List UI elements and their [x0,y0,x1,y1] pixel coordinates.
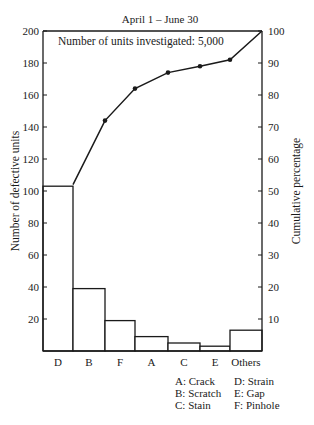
x-tick-label: A [148,356,156,368]
y-tick-label: 160 [23,89,40,101]
bar-f [105,321,135,351]
y-tick-label: 20 [28,313,40,325]
pareto-chart: DBFACEOthers2040608010012014016018020010… [0,0,314,425]
bar-a [135,337,168,351]
x-tick-label: F [117,356,123,368]
legend-entry: F: Pinhole [234,399,280,411]
cumulative-point [228,58,233,63]
y2-tick-label: 20 [268,281,280,293]
y-axis-label: Number of defective units [9,130,21,251]
x-tick-label: Others [231,356,260,368]
y-tick-label: 60 [28,249,40,261]
y2-tick-label: 80 [268,89,280,101]
cumulative-line [73,31,262,185]
y2-tick-label: 40 [268,217,280,229]
y-tick-label: 120 [23,153,40,165]
legend-entry: C: Stain [175,399,211,411]
chart-annotation: Number of units investigated: 5,000 [58,35,224,48]
cumulative-point [133,86,138,91]
legend-entry: A: Crack [175,375,216,387]
y2-tick-label: 60 [268,153,280,165]
y-tick-label: 180 [23,57,40,69]
bar-e [200,346,230,351]
y2-tick-label: 10 [268,313,280,325]
bar-d [43,186,73,351]
y-tick-label: 100 [23,185,40,197]
x-tick-label: C [180,356,187,368]
y-tick-label: 200 [23,25,40,37]
bar-others [230,330,262,351]
legend-entry: E: Gap [234,387,265,399]
legend-entry: B: Scratch [175,387,222,399]
y-tick-label: 140 [23,121,40,133]
y2-axis-label: Cumulative percentage [290,138,303,244]
x-tick-label: B [85,356,92,368]
bar-b [73,289,105,351]
legend-entry: D: Strain [234,375,275,387]
cumulative-point [166,70,171,75]
cumulative-point [198,64,203,69]
chart-title: April 1 – June 30 [122,13,199,25]
y2-tick-label: 90 [268,57,280,69]
bar-c [168,343,200,351]
y2-tick-label: 100 [268,25,285,37]
y2-tick-label: 70 [268,121,280,133]
y2-tick-label: 50 [268,185,280,197]
y2-tick-label: 30 [268,249,280,261]
y-tick-label: 40 [28,281,40,293]
cumulative-point [103,118,108,123]
x-tick-label: D [54,356,62,368]
y-tick-label: 80 [28,217,40,229]
x-tick-label: E [212,356,219,368]
